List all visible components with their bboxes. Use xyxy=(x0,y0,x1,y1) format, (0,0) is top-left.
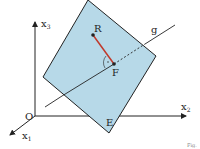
point-f xyxy=(112,62,116,66)
svg-text:g: g xyxy=(151,24,158,35)
svg-text:Fig.: Fig. xyxy=(187,142,197,149)
svg-text:x2: x2 xyxy=(181,101,191,113)
plane-e xyxy=(43,0,156,133)
svg-text:E: E xyxy=(106,117,113,128)
svg-text:F: F xyxy=(112,67,119,78)
geometry-figure: x3 x2 x1 O R F g E Fig. xyxy=(0,0,200,149)
line-g-out xyxy=(145,25,175,44)
svg-text:R: R xyxy=(94,23,102,34)
svg-text:O: O xyxy=(25,111,33,122)
svg-text:x1: x1 xyxy=(22,130,31,142)
svg-text:x3: x3 xyxy=(41,18,51,30)
line-g-back xyxy=(45,96,62,107)
diagram: x3 x2 x1 O R F g E Fig. xyxy=(0,0,200,149)
